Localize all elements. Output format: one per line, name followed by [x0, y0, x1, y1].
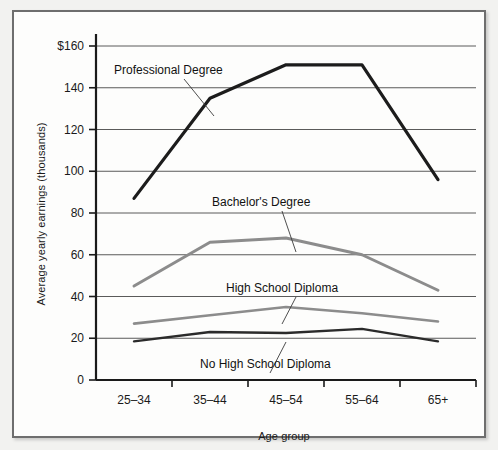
annotation-leader-line	[282, 211, 296, 252]
y-tick-label: 20	[71, 331, 85, 345]
y-tick-label: 120	[64, 123, 84, 137]
x-tick-label: 55–64	[345, 393, 379, 407]
x-tick-label: 65+	[428, 393, 448, 407]
x-tick-label: 35–44	[193, 393, 227, 407]
y-tick-label: $160	[57, 39, 84, 53]
y-tick-label: 80	[71, 206, 85, 220]
series-line	[134, 65, 438, 199]
x-tick-labels-group: 25–3435–4445–5455–6465+	[117, 393, 448, 407]
annotation-leader-line	[282, 297, 296, 324]
x-tick-label: 45–54	[269, 393, 303, 407]
y-tick-label: 140	[64, 81, 84, 95]
line-chart-plot: 020406080100120140$160 25–3435–4445–5455…	[14, 12, 488, 440]
x-tick-label: 25–34	[117, 393, 151, 407]
series-line	[134, 329, 438, 342]
y-tick-label: 0	[77, 373, 84, 387]
chart-panel: Average yearly earnings (thousands) Age …	[12, 10, 486, 438]
y-tick-labels-group: 020406080100120140$160	[57, 39, 84, 387]
figure-container: Average yearly earnings (thousands) Age …	[0, 0, 498, 450]
y-tick-label: 100	[64, 164, 84, 178]
series-label: High School Diploma	[226, 281, 338, 295]
series-label: Bachelor's Degree	[212, 195, 311, 209]
series-label: Professional Degree	[114, 63, 223, 77]
y-tick-label: 40	[71, 290, 85, 304]
series-line	[134, 307, 438, 324]
series-annotations-group: Professional DegreeBachelor's DegreeHigh…	[114, 63, 338, 373]
series-label: No High School Diploma	[200, 357, 331, 371]
y-tick-label: 60	[71, 248, 85, 262]
